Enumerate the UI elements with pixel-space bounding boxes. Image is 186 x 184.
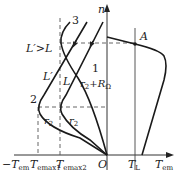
arrow-curve-2 <box>74 41 76 45</box>
l-prime-label: L′ <box>42 70 53 83</box>
inequality-label: L′>L <box>25 42 52 55</box>
tl-label: TL <box>128 158 140 172</box>
tem-label: Tem <box>155 158 173 172</box>
r2-label-a: r2 <box>44 115 53 128</box>
origin-label: O <box>98 158 107 171</box>
motor-curve-right <box>107 37 166 155</box>
arrow-curve-1 <box>91 41 93 45</box>
temax2-label: Temax2 <box>56 158 87 172</box>
n-axis-label: n <box>98 3 105 16</box>
curve-3-label: 3 <box>72 14 79 27</box>
point-a <box>133 42 137 46</box>
l-label: L <box>62 75 70 88</box>
neg-tem-label: −Tem <box>2 158 30 172</box>
speed-torque-diagram: n A 3 1 2 L′>L L′ L r2+RΩ r2 r2 −Tem Tem… <box>0 0 186 184</box>
curve-2-label: 2 <box>30 93 37 106</box>
r2-ro-label: r2+RΩ <box>80 78 111 91</box>
point-a-label: A <box>139 30 148 43</box>
curve-1-label: 1 <box>92 62 99 75</box>
